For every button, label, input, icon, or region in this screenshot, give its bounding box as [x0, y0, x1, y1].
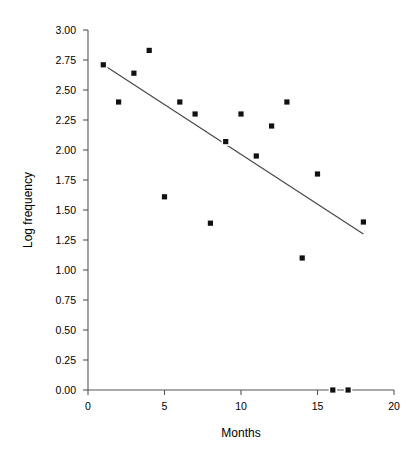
data-point: [300, 255, 305, 260]
x-tick-label: 0: [85, 400, 91, 412]
y-tick-label: 0.25: [56, 354, 77, 366]
trend-line: [103, 65, 363, 234]
y-tick-label: 0.75: [56, 294, 77, 306]
data-point: [116, 99, 121, 104]
scatter-plot-figure: 0.000.250.500.751.001.251.501.752.002.25…: [0, 0, 415, 453]
data-point: [193, 111, 198, 116]
data-point: [101, 62, 106, 67]
y-tick-label: 1.75: [56, 174, 77, 186]
data-point: [361, 219, 366, 224]
data-point: [269, 123, 274, 128]
y-tick-label: 3.00: [56, 24, 77, 36]
x-axis-tick-labels: 05101520: [85, 400, 400, 412]
y-tick-label: 2.50: [56, 84, 77, 96]
y-tick-label: 2.75: [56, 54, 77, 66]
y-axis-tick-labels: 0.000.250.500.751.001.251.501.752.002.25…: [56, 24, 77, 396]
chart-canvas: 0.000.250.500.751.001.251.501.752.002.25…: [0, 0, 415, 453]
data-point: [284, 99, 289, 104]
x-tick-label: 5: [162, 400, 168, 412]
data-point: [131, 71, 136, 76]
y-tick-label: 0.50: [56, 324, 77, 336]
x-tick-label: 15: [312, 400, 324, 412]
y-tick-label: 2.25: [56, 114, 77, 126]
data-point: [346, 387, 351, 392]
y-tick-label: 0.00: [56, 384, 77, 396]
data-point: [254, 153, 259, 158]
x-axis-title: Months: [221, 426, 260, 440]
data-point: [177, 99, 182, 104]
y-axis-title: Log frequency: [21, 172, 35, 248]
data-point: [162, 194, 167, 199]
y-axis-tick-marks: [83, 30, 88, 390]
data-point-markers: [99, 46, 368, 394]
data-point: [223, 139, 228, 144]
y-tick-label: 1.25: [56, 234, 77, 246]
y-tick-label: 1.50: [56, 204, 77, 216]
data-point: [238, 111, 243, 116]
data-point: [208, 221, 213, 226]
data-point: [330, 387, 335, 392]
y-tick-label: 2.00: [56, 144, 77, 156]
data-point: [147, 48, 152, 53]
y-tick-label: 1.00: [56, 264, 77, 276]
x-tick-label: 20: [388, 400, 400, 412]
data-point: [315, 171, 320, 176]
x-tick-label: 10: [235, 400, 247, 412]
